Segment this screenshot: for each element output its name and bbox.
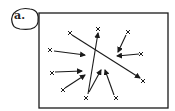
x-marker-icon <box>84 96 88 100</box>
arrow <box>89 70 101 92</box>
x-marker-icon <box>68 31 72 35</box>
arrow-group <box>54 33 140 95</box>
x-marker-icon <box>114 96 118 100</box>
arrow <box>105 70 114 95</box>
diagram-figure <box>0 0 175 111</box>
arrow <box>117 54 139 56</box>
x-marker-icon <box>61 88 65 92</box>
x-marker-icon <box>96 27 100 31</box>
arrow <box>65 75 85 88</box>
arrow <box>118 35 126 52</box>
diagram-frame <box>39 13 168 108</box>
panel-label: a. <box>14 9 25 22</box>
x-marker-icon <box>141 79 145 83</box>
x-marker-group <box>48 27 145 100</box>
x-marker-icon <box>50 71 54 75</box>
x-marker-icon <box>139 52 143 56</box>
arrow <box>55 71 82 72</box>
x-marker-icon <box>126 30 130 34</box>
x-marker-icon <box>48 48 52 52</box>
arrow <box>54 51 85 55</box>
